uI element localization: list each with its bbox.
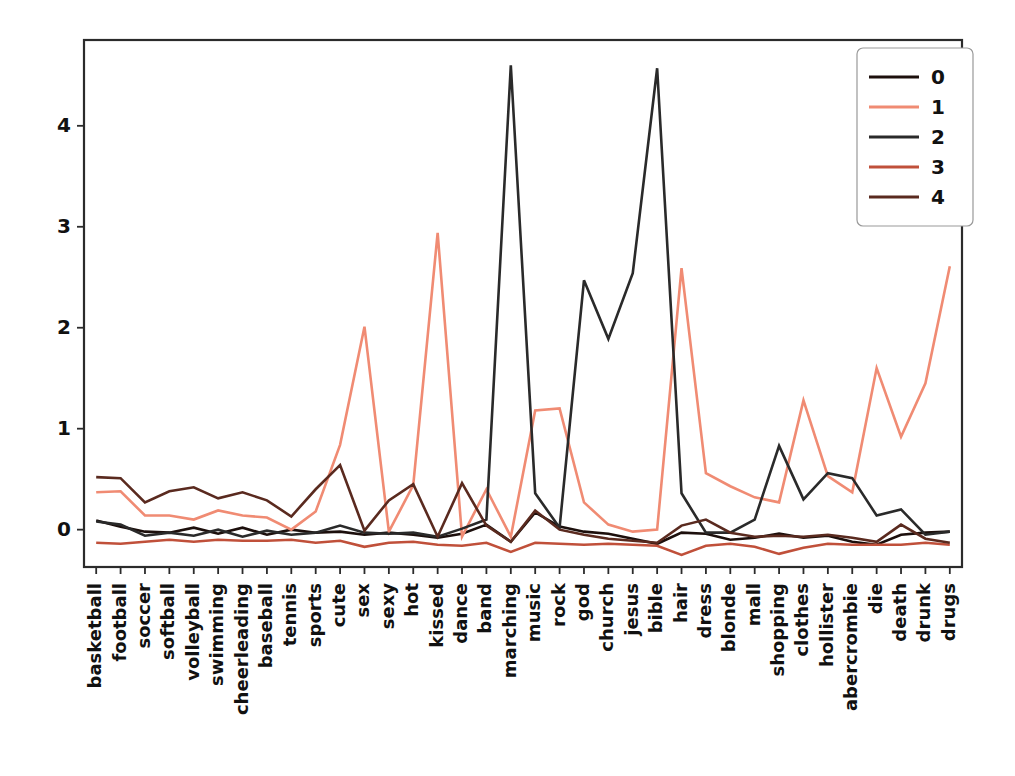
x-tick-label: abercrombie xyxy=(840,583,861,711)
legend[interactable]: 01234 xyxy=(857,48,973,226)
x-tick-label: swimming xyxy=(206,583,227,686)
x-tick-label: sexy xyxy=(377,583,398,630)
legend-label-3: 3 xyxy=(931,155,945,179)
y-tick-label: 1 xyxy=(57,416,71,440)
x-tick-label: tennis xyxy=(279,583,300,646)
x-tick-label: hair xyxy=(670,583,691,623)
y-tick-label: 3 xyxy=(57,214,71,238)
legend-label-0: 0 xyxy=(931,65,945,89)
x-tick-label: hot xyxy=(401,583,422,617)
x-tick-label: bible xyxy=(645,583,666,633)
x-tick-label: kissed xyxy=(426,583,447,648)
plot-background xyxy=(84,40,962,567)
x-tick-label: die xyxy=(865,583,886,614)
x-tick-label: band xyxy=(474,583,495,634)
x-tick-label: cheerleading xyxy=(231,583,252,715)
x-tick-label: death xyxy=(889,583,910,642)
x-tick-label: dress xyxy=(694,583,715,638)
line-chart-canvas: 01234 basketballfootballsoccersoftballvo… xyxy=(0,0,1015,776)
x-tick-label: volleyball xyxy=(182,583,203,681)
chart-figure: 01234 basketballfootballsoccersoftballvo… xyxy=(0,0,1015,776)
x-tick-label: dance xyxy=(450,583,471,644)
x-tick-label: sex xyxy=(352,583,373,618)
x-tick-label: drugs xyxy=(938,583,959,641)
x-tick-label: music xyxy=(523,583,544,642)
x-tick-label: mall xyxy=(743,583,764,626)
legend-label-1: 1 xyxy=(931,95,945,119)
y-tick-label: 0 xyxy=(57,517,71,541)
x-tick-label: blonde xyxy=(718,583,739,652)
legend-label-2: 2 xyxy=(931,125,945,149)
x-tick-label: jesus xyxy=(621,583,642,637)
x-tick-label: cute xyxy=(328,583,349,627)
x-tick-label: shopping xyxy=(767,583,788,677)
x-tick-label: football xyxy=(109,583,130,662)
x-tick-label: clothes xyxy=(791,583,812,657)
y-tick-label: 4 xyxy=(57,113,71,137)
x-tick-label: sports xyxy=(304,583,325,647)
x-tick-label: marching xyxy=(499,583,520,678)
y-axis-ticks: 01234 xyxy=(57,113,84,541)
x-tick-label: basketball xyxy=(84,583,105,688)
legend-label-4: 4 xyxy=(931,185,945,209)
x-tick-label: rock xyxy=(548,582,569,627)
y-tick-label: 2 xyxy=(57,315,71,339)
x-tick-label: drunk xyxy=(913,582,934,642)
x-tick-label: baseball xyxy=(255,583,276,668)
x-tick-label: church xyxy=(596,583,617,652)
x-tick-label: soccer xyxy=(133,583,154,649)
x-tick-label: softball xyxy=(157,583,178,660)
x-tick-label: hollister xyxy=(816,583,837,667)
x-axis-labels: basketballfootballsoccersoftballvolleyba… xyxy=(84,582,959,715)
x-tick-label: god xyxy=(572,583,593,621)
